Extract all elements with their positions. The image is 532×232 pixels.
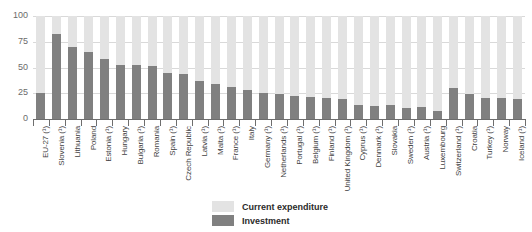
stacked-bar xyxy=(370,16,379,119)
x-label-slot: Portugal (¹) xyxy=(287,126,303,192)
bar-slot xyxy=(49,16,65,119)
bar-slot xyxy=(287,16,303,119)
x-axis-tick xyxy=(477,119,478,126)
x-label-slot: Romania xyxy=(144,126,160,192)
y-tick-label-50: 50 xyxy=(4,63,28,72)
bar-segment-investment xyxy=(84,52,93,119)
chart-legend: Current expenditure Investment xyxy=(212,200,412,228)
legend-item-investment: Investment xyxy=(212,214,412,227)
x-axis-labels: EU-27 (¹)Slovenia (¹)LithuaniaPolandEsto… xyxy=(33,126,525,192)
chart-container: 100 75 50 25 0 EU-27 (¹)Slovenia (¹)Lith… xyxy=(0,0,532,232)
x-label-slot: Czech Republic xyxy=(176,126,192,192)
bar-segment-investment xyxy=(354,105,363,119)
legend-label-current-expenditure: Current expenditure xyxy=(242,202,328,212)
x-axis-tick xyxy=(430,119,431,126)
x-label-slot: Denmark (¹) xyxy=(366,126,382,192)
x-label-slot: Estonia (¹) xyxy=(97,126,113,192)
bar-segment-investment xyxy=(402,108,411,119)
bar-slot xyxy=(128,16,144,119)
bar-segment-investment xyxy=(243,90,252,119)
bar-segment-investment xyxy=(36,93,45,119)
bar-slot xyxy=(65,16,81,119)
bar-segment-current-expenditure xyxy=(163,16,172,73)
x-label-slot: Austria (¹) xyxy=(414,126,430,192)
x-label-slot: Turkey (¹) xyxy=(478,126,494,192)
bar-slot xyxy=(446,16,462,119)
bar-segment-current-expenditure xyxy=(497,16,506,98)
bar-segment-investment xyxy=(465,94,474,119)
x-axis-tick xyxy=(255,119,256,126)
bar-slot xyxy=(239,16,255,119)
x-axis-tick xyxy=(335,119,336,126)
stacked-bar xyxy=(275,16,284,119)
bar-segment-current-expenditure xyxy=(306,16,315,97)
stacked-bar xyxy=(306,16,315,119)
bar-slot xyxy=(478,16,494,119)
bar-segment-investment xyxy=(148,66,157,119)
bar-slot xyxy=(319,16,335,119)
stacked-bar xyxy=(243,16,252,119)
stacked-bar xyxy=(148,16,157,119)
x-axis-tick xyxy=(414,119,415,126)
bar-segment-current-expenditure xyxy=(481,16,490,98)
bar-slot xyxy=(176,16,192,119)
x-label-slot: Lithuania xyxy=(65,126,81,192)
stacked-bar xyxy=(68,16,77,119)
bar-segment-investment xyxy=(179,74,188,119)
y-axis: 100 75 50 25 0 xyxy=(0,16,28,119)
stacked-bar xyxy=(179,16,188,119)
stacked-bar xyxy=(449,16,458,119)
stacked-bar xyxy=(322,16,331,119)
bar-segment-current-expenditure xyxy=(52,16,61,34)
stacked-bar xyxy=(386,16,395,119)
bar-slot xyxy=(81,16,97,119)
stacked-bar xyxy=(36,16,45,119)
bar-segment-current-expenditure xyxy=(354,16,363,105)
bar-series-group xyxy=(33,16,525,119)
x-axis-label: Iceland (¹) xyxy=(517,126,527,161)
bar-slot xyxy=(160,16,176,119)
y-tick-label-25: 25 xyxy=(4,88,28,97)
x-axis-tick xyxy=(350,119,351,126)
stacked-bar xyxy=(52,16,61,119)
stacked-bar xyxy=(402,16,411,119)
bar-segment-current-expenditure xyxy=(259,16,268,93)
stacked-bar xyxy=(417,16,426,119)
stacked-bar xyxy=(433,16,442,119)
bar-segment-investment xyxy=(116,65,125,119)
bar-segment-investment xyxy=(306,97,315,119)
x-label-slot: France (¹) xyxy=(224,126,240,192)
bar-slot xyxy=(509,16,525,119)
x-label-slot: Slovenia (¹) xyxy=(49,126,65,192)
bar-segment-investment xyxy=(100,59,109,119)
x-axis-tick xyxy=(462,119,463,126)
bar-segment-investment xyxy=(211,84,220,119)
bar-segment-current-expenditure xyxy=(84,16,93,52)
x-label-slot: Bulgaria (¹) xyxy=(128,126,144,192)
legend-swatch-current-expenditure xyxy=(212,201,234,212)
bar-slot xyxy=(271,16,287,119)
x-axis-tick xyxy=(319,119,320,126)
bar-segment-investment xyxy=(322,98,331,119)
bar-segment-current-expenditure xyxy=(402,16,411,108)
bar-slot xyxy=(112,16,128,119)
x-label-slot: Belgium (¹) xyxy=(303,126,319,192)
y-tick-label-75: 75 xyxy=(4,37,28,46)
bar-segment-investment xyxy=(275,94,284,119)
stacked-bar xyxy=(497,16,506,119)
bar-slot xyxy=(33,16,49,119)
stacked-bar xyxy=(354,16,363,119)
bar-segment-investment xyxy=(195,81,204,119)
bar-segment-current-expenditure xyxy=(338,16,347,99)
bar-slot xyxy=(144,16,160,119)
bar-segment-investment xyxy=(481,98,490,119)
x-axis-tick xyxy=(398,119,399,126)
x-axis-tick xyxy=(446,119,447,126)
bar-segment-investment xyxy=(132,65,141,119)
x-label-slot: Hungary xyxy=(112,126,128,192)
x-label-slot: Croatia xyxy=(462,126,478,192)
legend-label-investment: Investment xyxy=(242,216,290,226)
bar-segment-current-expenditure xyxy=(148,16,157,66)
stacked-bar xyxy=(100,16,109,119)
bar-segment-investment xyxy=(68,47,77,119)
